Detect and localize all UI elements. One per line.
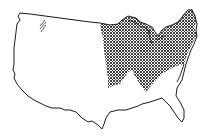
southeast-coast-line xyxy=(177,64,184,82)
us-map-svg xyxy=(0,0,206,140)
us-map xyxy=(0,0,206,140)
northwest-hatch-mark xyxy=(40,20,46,32)
